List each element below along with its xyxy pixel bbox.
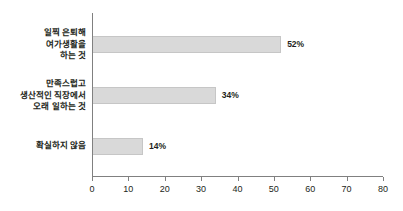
bar-row: 52%: [92, 36, 383, 53]
category-label: 확실하지 않음: [0, 140, 86, 152]
x-tick-mark: [165, 177, 166, 181]
x-tick-mark: [274, 177, 275, 181]
bar-value-label: 34%: [222, 90, 239, 101]
bar-value-label: 14%: [149, 141, 166, 152]
bar-not-sure: [92, 138, 143, 155]
x-tick-mark: [347, 177, 348, 181]
bar-chart: 일찍 은퇴해 여가생활을 하는 것 만족스럽고 생산적인 직장에서 오래 일하는…: [0, 0, 403, 211]
x-tick-mark: [383, 177, 384, 181]
x-tick-label: 20: [145, 184, 185, 195]
x-tick-label: 30: [181, 184, 221, 195]
x-tick-label: 10: [108, 184, 148, 195]
x-tick-label: 0: [72, 184, 112, 195]
bar-row: 34%: [92, 87, 383, 104]
bar-row: 14%: [92, 138, 383, 155]
x-tick-mark: [201, 177, 202, 181]
bar-value-label: 52%: [287, 39, 304, 50]
x-tick-mark: [238, 177, 239, 181]
x-tick-label: 60: [290, 184, 330, 195]
x-tick-mark: [128, 177, 129, 181]
bar-early-retirement: [92, 36, 281, 53]
x-tick-mark: [92, 177, 93, 181]
x-tick-mark: [310, 177, 311, 181]
x-tick-label: 40: [218, 184, 258, 195]
x-tick-label: 70: [327, 184, 367, 195]
category-label: 일찍 은퇴해 여가생활을 하는 것: [0, 27, 86, 62]
bar-satisfying-work: [92, 87, 216, 104]
y-axis-line: [92, 13, 93, 176]
category-label: 만족스럽고 생산적인 직장에서 오래 일하는 것: [0, 78, 86, 113]
x-tick-label: 80: [363, 184, 403, 195]
x-tick-label: 50: [254, 184, 294, 195]
